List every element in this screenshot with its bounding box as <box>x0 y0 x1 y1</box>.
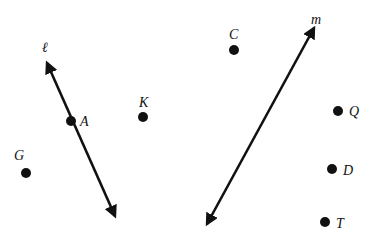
point-A-dot <box>66 116 76 126</box>
point-C-dot <box>229 45 239 55</box>
diagram-svg: ℓm AKGCQDT <box>0 0 378 242</box>
point-D: D <box>327 163 353 178</box>
points-layer: AKGCQDT <box>14 27 359 231</box>
point-C-label: C <box>229 27 239 42</box>
point-G-dot <box>21 168 31 178</box>
point-A-label: A <box>79 114 89 129</box>
point-K-dot <box>138 112 148 122</box>
line-m: m <box>207 12 321 224</box>
point-G-label: G <box>14 148 24 163</box>
point-T-label: T <box>336 216 345 231</box>
point-A: A <box>66 114 89 129</box>
point-D-dot <box>327 164 337 174</box>
point-T: T <box>320 216 345 231</box>
geometry-diagram: ℓm AKGCQDT <box>0 0 378 242</box>
line-l-stroke <box>47 63 115 216</box>
line-m-label: m <box>311 12 321 27</box>
line-l-label: ℓ <box>42 40 48 55</box>
point-Q: Q <box>333 104 359 119</box>
point-T-dot <box>320 217 330 227</box>
point-K: K <box>138 95 149 122</box>
line-l: ℓ <box>42 40 115 216</box>
point-Q-dot <box>333 106 343 116</box>
point-Q-label: Q <box>349 104 359 119</box>
point-G: G <box>14 148 31 178</box>
point-D-label: D <box>342 163 353 178</box>
point-C: C <box>229 27 239 55</box>
line-m-stroke <box>207 28 314 224</box>
point-K-label: K <box>138 95 149 110</box>
